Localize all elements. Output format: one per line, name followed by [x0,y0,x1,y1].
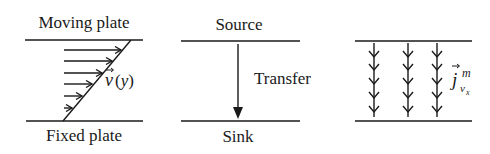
source-label: Source [215,15,262,34]
velocity-argument: (y) [115,71,134,90]
fixed-plate-label: Fixed plate [46,126,122,145]
sink-label: Sink [222,127,254,146]
flux-subsubscript: x [465,88,470,97]
source-sink-panel: Source Transfer Sink [181,15,311,146]
transfer-label: Transfer [254,69,311,88]
couette-flow-panel: Moving plate v (y) Fixed plate [25,13,143,145]
flux-symbol: j [449,69,457,90]
flux-column-1 [369,43,379,117]
flux-subscript: v [460,82,465,94]
flux-label: j m v x [449,64,471,97]
velocity-symbol: v [105,70,113,90]
flux-column-2 [403,43,413,117]
momentum-flux-panel: j m v x [355,41,472,121]
flux-superscript: m [462,66,471,80]
moving-plate-label: Moving plate [38,13,129,32]
transport-diagram: Moving plate v (y) Fixed plate Source Tr… [0,0,490,154]
down-arrow-icon [233,107,243,119]
velocity-label: v (y) [105,68,134,90]
flux-column-3 [432,43,442,117]
